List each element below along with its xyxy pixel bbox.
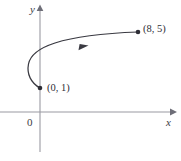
x-axis-label: x xyxy=(166,117,171,128)
origin-label: 0 xyxy=(27,117,33,128)
end-point-label: (8, 5) xyxy=(143,24,166,35)
parametric-curve-figure: y x 0 (0, 1) (8, 5) xyxy=(0,0,181,161)
end-point-dot xyxy=(136,30,141,35)
curve-direction-arrow-icon xyxy=(79,44,89,50)
start-point-dot xyxy=(38,86,43,91)
parametric-curve-path xyxy=(28,32,138,88)
y-axis-label: y xyxy=(30,4,35,15)
start-point-label: (0, 1) xyxy=(47,83,70,94)
y-axis-arrowhead xyxy=(37,5,44,12)
x-axis-arrowhead xyxy=(170,109,177,116)
